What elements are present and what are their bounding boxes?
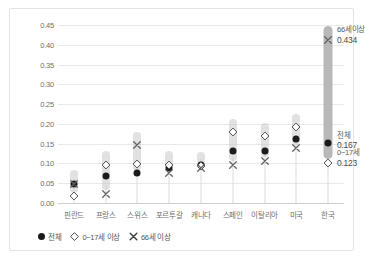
- y-axis-tick-label: 0.20: [28, 119, 54, 128]
- data-point-cross-icon: [228, 160, 237, 169]
- x-axis-category-label: 캐나다: [191, 209, 211, 220]
- value-range-band: [102, 151, 110, 190]
- category-column: 프랑스: [90, 25, 122, 203]
- category-column: 한국: [312, 25, 344, 203]
- diamond-icon: [70, 232, 79, 241]
- x-axis-category-label: 프랑스: [96, 209, 116, 220]
- annotation-value: 0.123: [337, 158, 359, 169]
- x-axis-category-label: 핀란드: [64, 209, 84, 220]
- annotation-value: 0.434: [337, 35, 365, 46]
- annotation-label: 0~17세: [337, 148, 359, 157]
- data-point-filled-circle-icon: [134, 169, 141, 176]
- x-axis-category-label: 스페인: [223, 209, 243, 220]
- data-annotation: 66세이상0.434: [337, 25, 365, 45]
- legend-item[interactable]: 0~17세 이상: [70, 231, 120, 242]
- x-axis-category-label: 이탈리아: [251, 209, 278, 220]
- y-axis-tick-label: 0.45: [28, 21, 54, 30]
- cross-icon: [129, 232, 138, 241]
- y-axis-tick-label: 0.35: [28, 60, 54, 69]
- data-annotation: 0~17세0.123: [337, 148, 359, 168]
- category-column: 스위스: [122, 25, 154, 203]
- data-point-filled-circle-icon: [102, 172, 109, 179]
- x-axis-category-label: 포르투갈: [156, 209, 183, 220]
- data-point-diamond-icon: [101, 160, 110, 169]
- data-point-diamond-icon: [69, 192, 78, 201]
- data-point-filled-circle-icon: [229, 147, 236, 154]
- data-point-diamond-icon: [228, 128, 237, 137]
- filled-circle-icon: [38, 233, 45, 240]
- y-axis-tick-label: 0.05: [28, 179, 54, 188]
- value-range-band: [229, 119, 237, 161]
- chart-legend: 전체0~17세 이상66세 이상: [38, 231, 171, 242]
- y-axis-tick-label: 0.10: [28, 159, 54, 168]
- data-point-diamond-icon: [324, 158, 333, 167]
- data-point-filled-circle-icon: [261, 147, 268, 154]
- legend-item-label: 0~17세 이상: [82, 231, 120, 242]
- data-point-diamond-icon: [292, 123, 301, 132]
- y-axis-tick-label: 0.00: [28, 199, 54, 208]
- legend-item[interactable]: 전체: [38, 231, 61, 242]
- legend-item-label: 66세 이상: [141, 231, 171, 242]
- annotation-label: 66세이상: [337, 25, 365, 34]
- category-column: 포르투갈: [153, 25, 185, 203]
- category-column: 이탈리아: [249, 25, 281, 203]
- y-axis-tick-label: 0.30: [28, 80, 54, 89]
- x-axis-category-label: 한국: [321, 209, 334, 220]
- category-column: 미국: [280, 25, 312, 203]
- data-point-filled-circle-icon: [325, 140, 332, 147]
- data-point-diamond-icon: [133, 160, 142, 169]
- data-point-cross-icon: [292, 144, 301, 153]
- data-point-cross-icon: [260, 156, 269, 165]
- category-column: 스페인: [217, 25, 249, 203]
- y-axis-tick-label: 0.40: [28, 40, 54, 49]
- y-axis-tick-labels: 0.450.400.350.300.250.200.150.100.050.00: [24, 25, 54, 203]
- x-axis-category-label: 스위스: [127, 209, 147, 220]
- data-point-cross-icon: [165, 168, 174, 177]
- category-column: 핀란드: [58, 25, 90, 203]
- data-point-cross-icon: [196, 163, 205, 172]
- plot-area: 핀란드프랑스스위스포르투갈캐나다스페인이탈리아미국한국66세이상0.434전체0…: [58, 25, 344, 203]
- data-point-cross-icon: [69, 179, 78, 188]
- x-axis-category-label: 미국: [290, 209, 303, 220]
- y-axis-tick-label: 0.25: [28, 100, 54, 109]
- legend-item-label: 전체: [48, 231, 61, 242]
- category-column: 캐나다: [185, 25, 217, 203]
- data-point-cross-icon: [324, 35, 333, 44]
- legend-item[interactable]: 66세 이상: [129, 231, 171, 242]
- data-point-cross-icon: [133, 141, 142, 150]
- data-point-filled-circle-icon: [293, 136, 300, 143]
- chart-frame: 0.450.400.350.300.250.200.150.100.050.00…: [9, 8, 354, 251]
- y-axis-tick-label: 0.15: [28, 139, 54, 148]
- data-point-cross-icon: [101, 189, 110, 198]
- annotation-label: 전체: [337, 131, 350, 140]
- data-point-diamond-icon: [260, 132, 269, 141]
- gridline: [58, 203, 344, 204]
